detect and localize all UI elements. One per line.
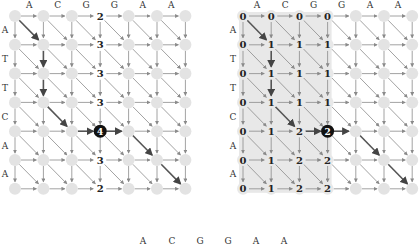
grid-node bbox=[406, 10, 418, 22]
grid-node bbox=[37, 125, 49, 137]
grid-node bbox=[406, 183, 418, 195]
sequence-letter: A bbox=[139, 236, 147, 246]
node-value: 1 bbox=[268, 39, 275, 50]
grid-edge bbox=[161, 49, 180, 69]
node-value: 1 bbox=[268, 68, 275, 79]
grid-node bbox=[350, 96, 362, 108]
node-value: 2 bbox=[324, 155, 331, 166]
column-label: A bbox=[139, 0, 147, 10]
node-value: 1 bbox=[296, 39, 303, 50]
grid-node bbox=[37, 68, 49, 80]
grid-node bbox=[9, 10, 21, 22]
node-value: 1 bbox=[324, 97, 331, 108]
row-label: C bbox=[2, 112, 9, 122]
grid-edge bbox=[332, 49, 351, 69]
column-label: C bbox=[54, 0, 61, 10]
column-label: A bbox=[25, 0, 33, 10]
grid-node bbox=[151, 183, 163, 195]
grid-node bbox=[66, 183, 78, 195]
grid-node bbox=[378, 10, 390, 22]
grid-node bbox=[37, 39, 49, 51]
row-label: A bbox=[229, 141, 237, 151]
grid-node bbox=[179, 39, 191, 51]
grid-node bbox=[66, 125, 78, 137]
grid-edge bbox=[19, 78, 38, 98]
right-grid-panel: 0000011101110111012201220122ACGGAAATTCAA bbox=[229, 0, 418, 195]
grid-edge bbox=[104, 20, 123, 40]
grid-edge bbox=[48, 78, 67, 98]
grid-edge bbox=[161, 20, 180, 40]
grid-node bbox=[123, 125, 135, 137]
grid-edge bbox=[360, 49, 379, 69]
grid-node bbox=[406, 39, 418, 51]
grid-node bbox=[9, 39, 21, 51]
path-edge-bold bbox=[19, 20, 38, 40]
grid-edge bbox=[76, 107, 95, 127]
grid-node bbox=[9, 96, 21, 108]
sequence-letter: G bbox=[224, 236, 231, 246]
grid-node bbox=[406, 154, 418, 166]
grid-edge bbox=[104, 49, 123, 69]
grid-edge bbox=[388, 49, 407, 69]
node-value: 0 bbox=[240, 97, 247, 108]
grid-node bbox=[123, 96, 135, 108]
grid-node bbox=[9, 68, 21, 80]
grid-node bbox=[350, 154, 362, 166]
row-label: A bbox=[229, 169, 237, 179]
grid-edge bbox=[332, 107, 351, 127]
grid-node bbox=[350, 39, 362, 51]
grid-node bbox=[179, 154, 191, 166]
grid-edge bbox=[332, 164, 351, 184]
node-value: 0 bbox=[324, 11, 331, 22]
bottom-sequence: ACGGAA bbox=[139, 236, 288, 246]
grid-node bbox=[66, 96, 78, 108]
grid-node bbox=[179, 183, 191, 195]
row-label: T bbox=[230, 83, 236, 93]
grid-node bbox=[378, 68, 390, 80]
node-value: 2 bbox=[296, 126, 303, 137]
grid-edge bbox=[388, 135, 407, 155]
grid-node bbox=[123, 10, 135, 22]
row-label: T bbox=[2, 83, 8, 93]
column-label: G bbox=[338, 0, 345, 10]
grid-node bbox=[9, 154, 21, 166]
grid-edge bbox=[104, 78, 123, 98]
column-label: A bbox=[394, 0, 402, 10]
node-value: 0 bbox=[240, 68, 247, 79]
grid-node bbox=[350, 68, 362, 80]
grid-edge bbox=[133, 49, 152, 69]
node-value: 1 bbox=[324, 68, 331, 79]
left-grid-panel: 2333432ACGGAAATTCAA bbox=[1, 0, 192, 195]
column-label: A bbox=[253, 0, 261, 10]
grid-node bbox=[406, 96, 418, 108]
grid-node bbox=[151, 154, 163, 166]
grid-edge bbox=[388, 107, 407, 127]
grid-node bbox=[179, 10, 191, 22]
grid-node bbox=[378, 183, 390, 195]
sequence-letter: A bbox=[252, 236, 260, 246]
sequence-letter: G bbox=[196, 236, 203, 246]
grid-edge bbox=[360, 78, 379, 98]
path-edge-bold bbox=[161, 164, 180, 184]
grid-edge bbox=[360, 164, 379, 184]
grid-node bbox=[406, 68, 418, 80]
node-value: 1 bbox=[324, 39, 331, 50]
grid-edge bbox=[332, 20, 351, 40]
node-value: 2 bbox=[296, 183, 303, 194]
grid-node bbox=[151, 10, 163, 22]
node-value: 2 bbox=[324, 127, 330, 137]
node-value: 0 bbox=[240, 183, 247, 194]
grid-node bbox=[9, 125, 21, 137]
grid-edge bbox=[161, 78, 180, 98]
grid-edge bbox=[104, 164, 123, 184]
row-label: A bbox=[1, 25, 9, 35]
column-label: C bbox=[282, 0, 289, 10]
grid-node bbox=[151, 39, 163, 51]
grid-edge bbox=[19, 49, 38, 69]
grid-node bbox=[66, 39, 78, 51]
path-edge-bold bbox=[360, 135, 379, 155]
grid-edge bbox=[332, 135, 351, 155]
grid-edge bbox=[76, 78, 95, 98]
grid-node bbox=[123, 68, 135, 80]
grid-node bbox=[179, 125, 191, 137]
